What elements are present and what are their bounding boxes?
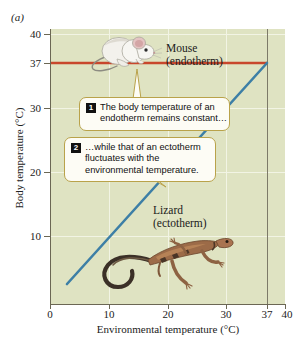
callout-2-line3: environmental temperature. [85,165,208,176]
callout-2-line2: fluctuates with the [85,153,208,164]
callout-1-line2: endotherm remains constant… [100,113,227,124]
callout-2-text: …while that of an ectotherm fluctuates w… [85,142,208,176]
callout-2-badge: 2 [71,143,81,153]
callout-2: 2 …while that of an ectotherm fluctuates… [64,137,216,182]
callout-1-line1: The body temperature of an [100,102,227,113]
figure-panel: (a) 40 37 30 20 10 [0,0,305,343]
callout-1: 1 The body temperature of an endotherm r… [79,97,230,131]
callout-1-text: The body temperature of an endotherm rem… [100,102,227,125]
callout-1-badge: 1 [86,103,96,113]
callout-2-line1: …while that of an ectotherm [85,142,208,153]
